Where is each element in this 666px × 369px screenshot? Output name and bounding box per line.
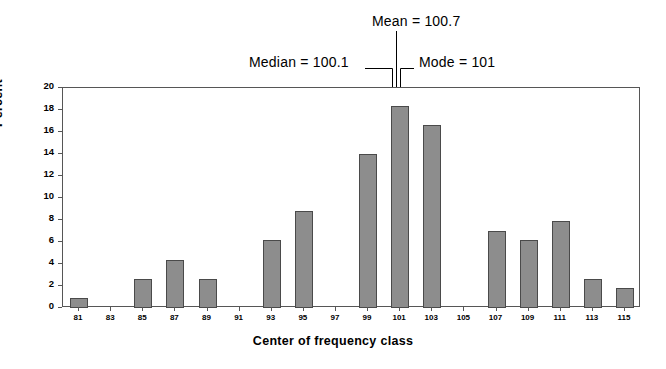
x-tick-mark [496, 307, 497, 311]
annotation-label-mean: Mean = 100.7 [372, 13, 460, 29]
y-tick-label: 2 [49, 278, 54, 289]
x-tick-mark [142, 307, 143, 311]
bar [391, 106, 409, 308]
bar [423, 125, 441, 308]
x-tick-label: 83 [95, 313, 125, 322]
x-tick-label: 97 [320, 313, 350, 322]
y-tick: 8 [0, 219, 62, 220]
y-tick: 16 [0, 131, 62, 132]
x-tick-label: 91 [224, 313, 254, 322]
x-tick-mark [78, 307, 79, 311]
x-tick-label: 93 [256, 313, 286, 322]
x-tick-mark [560, 307, 561, 311]
x-tick-mark [271, 307, 272, 311]
bar [552, 221, 570, 308]
x-tick-label: 107 [481, 313, 511, 322]
y-tick: 2 [0, 285, 62, 286]
x-axis-title: Center of frequency class [0, 334, 666, 348]
bar [263, 240, 281, 308]
x-tick-label: 89 [192, 313, 222, 322]
y-tick: 0 [0, 307, 62, 308]
x-tick-label: 111 [545, 313, 575, 322]
x-tick-mark [335, 307, 336, 311]
bar [134, 279, 152, 308]
x-tick-mark [592, 307, 593, 311]
y-tick-label: 0 [49, 300, 54, 311]
y-tick-label: 14 [43, 146, 54, 157]
bar [488, 231, 506, 308]
y-tick: 4 [0, 263, 62, 264]
x-tick-label: 105 [448, 313, 478, 322]
y-tick: 14 [0, 153, 62, 154]
annotation-label-mode: Mode = 101 [419, 54, 495, 70]
y-tick-mark [58, 307, 62, 308]
bar [295, 211, 313, 308]
y-tick: 10 [0, 197, 62, 198]
x-tick-label: 109 [513, 313, 543, 322]
y-tick-label: 18 [43, 102, 54, 113]
x-tick-label: 85 [127, 313, 157, 322]
y-tick-label: 4 [49, 256, 54, 267]
x-tick-label: 101 [384, 313, 414, 322]
bar [166, 260, 184, 308]
bar [70, 298, 88, 308]
x-tick-label: 87 [159, 313, 189, 322]
x-tick-label: 81 [63, 313, 93, 322]
y-tick-label: 10 [43, 190, 54, 201]
x-tick-mark [110, 307, 111, 311]
y-tick: 6 [0, 241, 62, 242]
x-tick-mark [367, 307, 368, 311]
x-tick-mark [174, 307, 175, 311]
y-tick: 20 [0, 87, 62, 88]
histogram-figure: Mean = 100.7 Median = 100.1 Mode = 101 P… [0, 0, 666, 369]
y-axis-title: Percent [0, 43, 5, 163]
x-tick-label: 103 [416, 313, 446, 322]
x-tick-mark [399, 307, 400, 311]
bar [616, 288, 634, 308]
plot-area [62, 87, 640, 307]
x-tick-label: 113 [577, 313, 607, 322]
bar [359, 154, 377, 308]
x-tick-label: 99 [352, 313, 382, 322]
x-tick-mark [207, 307, 208, 311]
x-tick-label: 95 [288, 313, 318, 322]
annotation-label-median: Median = 100.1 [249, 54, 349, 70]
bar [520, 240, 538, 308]
x-tick-mark [431, 307, 432, 311]
bar [584, 279, 602, 308]
y-tick-label: 16 [43, 124, 54, 135]
x-tick-mark [528, 307, 529, 311]
x-tick-mark [624, 307, 625, 311]
y-tick: 12 [0, 175, 62, 176]
x-tick-mark [239, 307, 240, 311]
x-tick-label: 115 [609, 313, 639, 322]
y-tick-label: 20 [43, 80, 54, 91]
x-tick-mark [463, 307, 464, 311]
x-tick-mark [303, 307, 304, 311]
y-tick-label: 12 [43, 168, 54, 179]
y-tick: 18 [0, 109, 62, 110]
bar [199, 279, 217, 308]
y-tick-label: 6 [49, 234, 54, 245]
y-tick-label: 8 [49, 212, 54, 223]
